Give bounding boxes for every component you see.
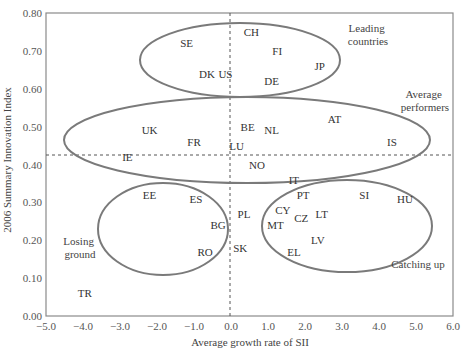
point-label-lv: LV	[311, 234, 325, 246]
ellipse-leading-countries	[140, 23, 340, 97]
data-point-labels: SECHFIJPDKUSDEUKFRBENLATISLUIENOITEEESPT…	[78, 26, 413, 299]
x-tick-label: 3.0	[335, 320, 349, 332]
point-label-fr: FR	[187, 136, 201, 148]
x-tick-label: −1.0	[184, 320, 204, 332]
y-tick-label: 0.40	[23, 159, 43, 171]
x-axis-title: Average growth rate of SII	[191, 336, 309, 348]
x-tick-label: 5.0	[409, 320, 423, 332]
point-label-it: IT	[289, 174, 300, 186]
point-label-nl: NL	[264, 124, 279, 136]
point-label-uk: UK	[142, 124, 158, 136]
y-tick-label: 0.70	[23, 45, 43, 57]
x-tick-label: 4.0	[372, 320, 386, 332]
point-label-de: DE	[264, 75, 279, 87]
point-label-cy: CY	[275, 204, 290, 216]
y-tick-label: 0.60	[23, 83, 43, 95]
point-label-ee: EE	[143, 189, 157, 201]
y-tick-label: 0.80	[23, 7, 43, 19]
ellipse-average-performers	[64, 97, 430, 183]
x-tick-label: 1.0	[261, 320, 275, 332]
point-label-el: EL	[287, 246, 301, 258]
point-label-mt: MT	[267, 219, 284, 231]
point-label-si: SI	[359, 189, 369, 201]
y-tick-label: 0.00	[23, 310, 43, 322]
innovation-scatter-chart: −5.0−4.0−3.0−2.0−1.00.01.02.03.04.05.06.…	[0, 0, 469, 351]
point-label-es: ES	[189, 193, 202, 205]
point-label-no: NO	[249, 159, 265, 171]
y-axis-ticks: 0.000.100.200.300.400.500.600.700.80	[23, 7, 43, 322]
x-tick-label: 6.0	[446, 320, 460, 332]
x-axis-ticks: −5.0−4.0−3.0−2.0−1.00.01.02.03.04.05.06.…	[36, 320, 460, 332]
point-label-is: IS	[387, 136, 397, 148]
point-label-jp: JP	[315, 60, 325, 72]
group-label-losing: Losing ground	[63, 235, 96, 260]
group-label-average: Average performers	[401, 88, 449, 113]
x-tick-label: −2.0	[147, 320, 167, 332]
point-label-tr: TR	[78, 287, 93, 299]
y-tick-label: 0.50	[23, 121, 43, 133]
point-label-pl: PL	[238, 208, 251, 220]
point-label-at: AT	[328, 113, 342, 125]
point-label-hu: HU	[397, 193, 413, 205]
point-label-bg: BG	[210, 219, 225, 231]
point-label-sk: SK	[233, 242, 247, 254]
group-label-leading: Leading countries	[348, 22, 388, 47]
y-tick-label: 0.30	[23, 196, 43, 208]
point-label-ie: IE	[122, 151, 133, 163]
point-label-be: BE	[241, 121, 255, 133]
point-label-lt: LT	[315, 208, 328, 220]
y-tick-label: 0.20	[23, 234, 43, 246]
x-tick-label: −4.0	[73, 320, 93, 332]
x-tick-label: 0.0	[224, 320, 238, 332]
y-axis-title: 2006 Summary Innovation Index	[1, 87, 13, 233]
point-label-se: SE	[180, 37, 193, 49]
point-label-pt: PT	[297, 189, 310, 201]
point-label-us: US	[218, 68, 232, 80]
x-tick-label: 2.0	[298, 320, 312, 332]
point-label-dk: DK	[199, 68, 215, 80]
y-tick-label: 0.10	[23, 272, 43, 284]
point-label-cz: CZ	[294, 212, 308, 224]
group-label-catching-up: Catching up	[391, 258, 445, 270]
ellipse-losing-ground	[98, 183, 228, 275]
point-label-ro: RO	[197, 246, 212, 258]
x-tick-label: −3.0	[110, 320, 130, 332]
point-label-fi: FI	[272, 45, 282, 57]
point-label-ch: CH	[244, 26, 259, 38]
point-label-lu: LU	[229, 140, 244, 152]
